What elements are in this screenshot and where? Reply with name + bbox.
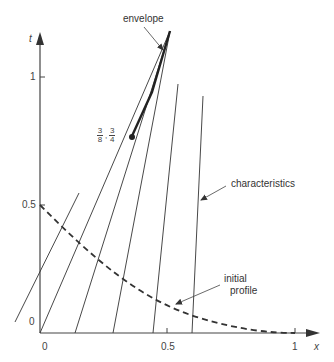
characteristic-line	[40, 31, 170, 333]
initial-profile-pointer-arrow	[176, 285, 220, 304]
t-tick-0-5: 0.5	[22, 199, 36, 210]
characteristic-lines	[15, 31, 203, 333]
initial-profile-curve	[40, 205, 295, 333]
x-axis-arrow-icon	[306, 329, 320, 337]
t-axis-arrow-icon	[36, 32, 44, 45]
x-axis-label: x	[314, 341, 319, 352]
envelope-start-point	[129, 134, 135, 140]
point-coordinate-label: 3 8 , 3 4	[97, 127, 115, 144]
t-denominator: 4	[110, 136, 114, 144]
t-axis-label: t	[29, 33, 32, 44]
x-tick-0: 0	[42, 341, 48, 352]
x-fraction: 3 8	[97, 127, 103, 144]
envelope-pointer-arrow	[144, 27, 163, 50]
characteristic-line	[15, 193, 79, 322]
t-tick-1: 1	[30, 71, 36, 82]
envelope-curve	[132, 31, 170, 136]
characteristics-pointer-arrow	[201, 186, 226, 200]
coordinate-separator: ,	[105, 131, 107, 140]
characteristic-line	[113, 31, 170, 333]
x-tick-0-5: 0.5	[161, 341, 175, 352]
initial-profile-label-line2: profile	[230, 285, 257, 296]
t-tick-0: 0	[29, 316, 35, 327]
x-denominator: 8	[98, 136, 102, 144]
characteristic-line	[153, 84, 178, 333]
t-numerator: 3	[110, 127, 114, 135]
x-axis	[40, 328, 320, 337]
t-fraction: 3 4	[109, 127, 115, 144]
characteristics-label: characteristics	[231, 178, 295, 189]
t-axis	[36, 32, 45, 333]
x-tick-1: 1	[292, 341, 298, 352]
characteristic-line	[192, 96, 203, 333]
initial-profile-label-line1: initial	[224, 273, 247, 284]
x-numerator: 3	[98, 127, 102, 135]
envelope-label: envelope	[123, 13, 164, 24]
